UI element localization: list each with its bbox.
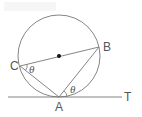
tangent-chord-diagram: C B A T θ θ — [0, 0, 142, 117]
theta-label-A: θ — [70, 83, 76, 95]
faint-watermark — [4, 2, 56, 11]
angle-arc-C — [26, 64, 28, 70]
chord-AB — [59, 47, 99, 97]
label-T: T — [124, 90, 132, 104]
theta-label-C: θ — [29, 63, 35, 75]
label-B: B — [103, 40, 111, 54]
label-C: C — [10, 59, 19, 73]
label-A: A — [55, 100, 63, 114]
center-point — [57, 54, 61, 58]
